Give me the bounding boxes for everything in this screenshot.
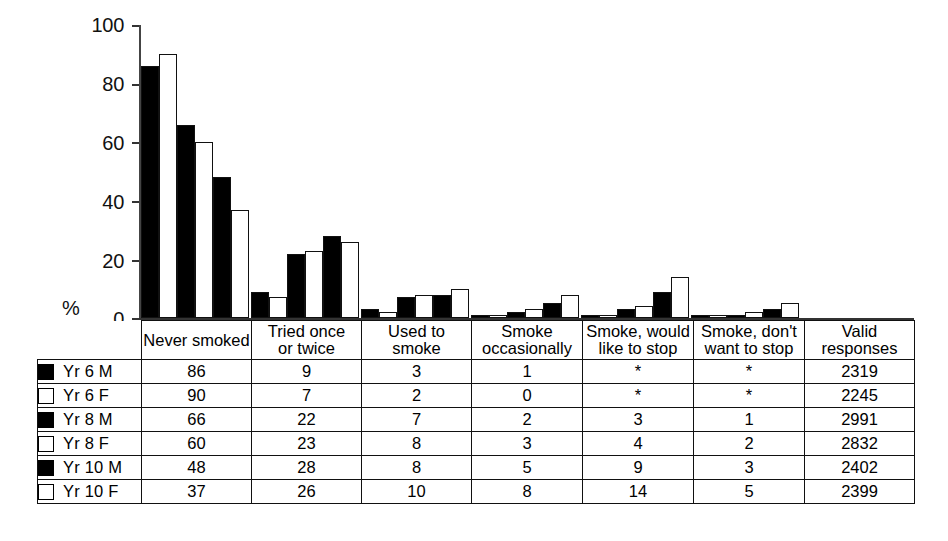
table-cell: 5 bbox=[694, 480, 805, 504]
table-cell: 2991 bbox=[805, 408, 915, 432]
header-line-2: like to stop bbox=[583, 340, 693, 357]
table-row: Yr 10 F37261081452399 bbox=[38, 480, 915, 504]
bar-chart: % 100 80 60 40 20 0 bbox=[0, 0, 948, 322]
bar-plot-area bbox=[0, 0, 948, 320]
bar bbox=[159, 54, 177, 318]
table-cell: 8 bbox=[362, 456, 472, 480]
row-legend-label: Yr 6 F bbox=[38, 384, 142, 408]
header-used-to-smoke: Used to smoke bbox=[362, 321, 472, 360]
open-square-icon bbox=[38, 436, 54, 452]
row-label-text: Yr 10 M bbox=[63, 458, 122, 476]
bar bbox=[525, 309, 543, 318]
header-line-2: occasionally bbox=[472, 340, 582, 357]
row-label-text: Yr 8 M bbox=[63, 410, 113, 428]
row-legend-label: Yr 6 M bbox=[38, 360, 142, 384]
header-smoke-occasionally: Smoke occasionally bbox=[472, 321, 583, 360]
header-line-2: or twice bbox=[252, 340, 361, 357]
bar bbox=[433, 295, 451, 318]
table-cell: 2 bbox=[362, 384, 472, 408]
table-cell: 10 bbox=[362, 480, 472, 504]
table-row: Yr 6 F90720**2245 bbox=[38, 384, 915, 408]
table-cell: 86 bbox=[142, 360, 252, 384]
table-cell: 2832 bbox=[805, 432, 915, 456]
table-row: Yr 8 M662272312991 bbox=[38, 408, 915, 432]
header-line-1: Used to smoke bbox=[362, 323, 471, 357]
bar bbox=[305, 251, 323, 318]
table-cell: 26 bbox=[252, 480, 362, 504]
table-cell: 7 bbox=[362, 408, 472, 432]
table-cell: 2 bbox=[472, 408, 583, 432]
table-cell: 8 bbox=[362, 432, 472, 456]
bar bbox=[489, 315, 507, 318]
bar bbox=[653, 292, 671, 318]
table-row: Yr 10 M482885932402 bbox=[38, 456, 915, 480]
bar bbox=[341, 242, 359, 318]
bar bbox=[781, 303, 799, 318]
table-cell: 5 bbox=[472, 456, 583, 480]
bar bbox=[269, 297, 287, 318]
table-cell: 23 bbox=[252, 432, 362, 456]
row-legend-label: Yr 8 M bbox=[38, 408, 142, 432]
header-line-1: Tried once bbox=[252, 323, 361, 340]
row-label-text: Yr 6 M bbox=[63, 362, 113, 380]
table-cell: 3 bbox=[362, 360, 472, 384]
table-cell: 2399 bbox=[805, 480, 915, 504]
data-table: Never smoked Tried once or twice Used to… bbox=[37, 320, 914, 504]
table-cell: 66 bbox=[142, 408, 252, 432]
bar bbox=[177, 125, 195, 318]
bar bbox=[415, 295, 433, 318]
table-cell: 22 bbox=[252, 408, 362, 432]
bar bbox=[617, 309, 635, 318]
table-cell: * bbox=[583, 384, 694, 408]
table-cell: 3 bbox=[694, 456, 805, 480]
row-label-text: Yr 10 F bbox=[63, 482, 119, 500]
bar bbox=[195, 142, 213, 318]
figure-root: % 100 80 60 40 20 0 bbox=[0, 0, 948, 541]
bar bbox=[361, 309, 379, 318]
table-cell: 7 bbox=[252, 384, 362, 408]
header-line-1: Smoke, would bbox=[583, 323, 693, 340]
bar bbox=[397, 297, 415, 318]
table-cell: 3 bbox=[583, 408, 694, 432]
header-line-1: Never smoked bbox=[142, 332, 251, 349]
bar bbox=[323, 236, 341, 318]
table-cell: 14 bbox=[583, 480, 694, 504]
table-cell: 2245 bbox=[805, 384, 915, 408]
row-label-text: Yr 6 F bbox=[63, 386, 109, 404]
table-cell: 37 bbox=[142, 480, 252, 504]
table-cell: 0 bbox=[472, 384, 583, 408]
header-line-1: Valid bbox=[805, 323, 914, 340]
header-line-1: Smoke bbox=[472, 323, 582, 340]
bar bbox=[543, 303, 561, 318]
header-line-2: responses bbox=[805, 340, 914, 357]
table-cell: 90 bbox=[142, 384, 252, 408]
open-square-icon bbox=[38, 484, 54, 500]
table-cell: 4 bbox=[583, 432, 694, 456]
bar bbox=[599, 315, 617, 318]
bar bbox=[251, 292, 269, 318]
bar bbox=[213, 177, 231, 318]
filled-square-icon bbox=[38, 364, 54, 380]
bar bbox=[727, 315, 745, 318]
table-cell: * bbox=[694, 360, 805, 384]
header-never-smoked: Never smoked bbox=[142, 321, 252, 360]
filled-square-icon bbox=[38, 412, 54, 428]
row-legend-label: Yr 8 F bbox=[38, 432, 142, 456]
table-cell: * bbox=[583, 360, 694, 384]
bar bbox=[581, 315, 599, 318]
row-label-text: Yr 8 F bbox=[63, 434, 109, 452]
row-legend-label: Yr 10 F bbox=[38, 480, 142, 504]
bar bbox=[691, 315, 709, 318]
bar bbox=[379, 312, 397, 318]
header-valid-responses: Valid responses bbox=[805, 321, 915, 360]
bar bbox=[451, 289, 469, 318]
bar bbox=[671, 277, 689, 318]
header-line-1: Smoke, don't bbox=[694, 323, 804, 340]
bar bbox=[561, 295, 579, 318]
bar bbox=[709, 315, 727, 318]
table-header-row: Never smoked Tried once or twice Used to… bbox=[38, 321, 915, 360]
table-cell: 1 bbox=[694, 408, 805, 432]
header-line-2: want to stop bbox=[694, 340, 804, 357]
table-cell: 1 bbox=[472, 360, 583, 384]
table-body: Yr 6 M86931**2319Yr 6 F90720**2245Yr 8 M… bbox=[38, 360, 915, 504]
